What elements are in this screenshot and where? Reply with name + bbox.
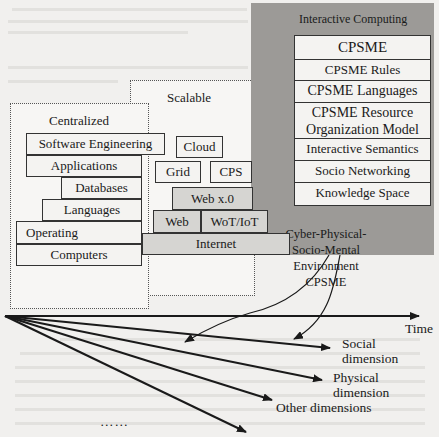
physical-dimension-label: Physical dimension bbox=[333, 370, 389, 400]
physical-label-line1: Physical bbox=[333, 370, 389, 385]
other-dimensions-label: Other dimensions bbox=[276, 400, 372, 415]
time-label: Time bbox=[405, 321, 433, 336]
social-dimension-label: Social dimension bbox=[342, 336, 398, 366]
physical-label-line2: dimension bbox=[333, 385, 389, 400]
social-label-line1: Social bbox=[342, 336, 398, 351]
cpsme-curve-arrow-1 bbox=[185, 255, 329, 342]
cpsme-curve-arrow-2 bbox=[294, 255, 340, 339]
physical-axis-arrow bbox=[5, 316, 322, 380]
social-label-line2: dimension bbox=[342, 351, 398, 366]
ellipsis-more-dimensions: …… bbox=[100, 414, 129, 429]
